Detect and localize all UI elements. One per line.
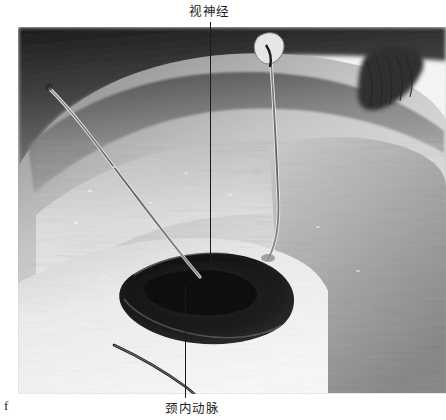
figure-sub-letter: f <box>4 398 8 413</box>
photo-grain <box>18 27 446 394</box>
figure-container: 视神经 颈内动脉 f <box>0 0 446 420</box>
photograph-canvas <box>18 27 446 394</box>
surgical-photograph <box>18 27 446 394</box>
annotation-label-optic-nerve: 视神经 <box>189 4 230 19</box>
leader-line-internal-carotid-artery <box>185 286 186 398</box>
leader-line-optic-nerve <box>210 22 211 266</box>
annotation-label-internal-carotid-artery: 颈内动脉 <box>165 401 219 416</box>
